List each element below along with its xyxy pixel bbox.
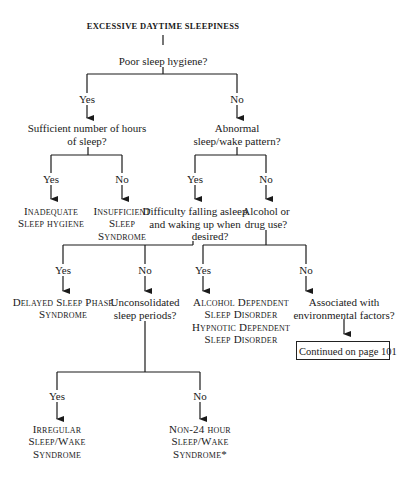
- question-sufficient-hours: Sufficient number of hours of sleep?: [28, 122, 147, 147]
- branch-label-no: No: [138, 264, 151, 276]
- branch-label-yes: Yes: [55, 264, 71, 276]
- question-alcohol-drug-use: Alcohol or drug use?: [242, 205, 289, 230]
- branch-label-yes: Yes: [187, 173, 203, 185]
- question-abnormal-pattern: Abnormal sleep/wake pattern?: [193, 122, 280, 147]
- root-excessive-daytime-sleepiness: EXCESSIVE DAYTIME SLEEPINESS: [87, 20, 240, 33]
- diagnosis-non24-hour-sleep-wake: Non-24 hour Sleep/Wake Syndrome*: [169, 423, 231, 460]
- continued-on-page-box: Continued on page 101: [296, 341, 390, 360]
- question-environmental-factors: Associated with environmental factors?: [293, 296, 394, 321]
- branch-label-no: No: [193, 390, 206, 402]
- diagnosis-alcohol-hypnotic-dependent: Alcohol Dependent Sleep Disorder Hypnoti…: [192, 296, 290, 345]
- branch-label-no: No: [259, 173, 272, 185]
- branch-label-yes: Yes: [43, 173, 59, 185]
- branch-label-no: No: [299, 264, 312, 276]
- question-unconsolidated-sleep: Unconsolidated sleep periods?: [110, 296, 179, 321]
- branch-label-yes: Yes: [49, 390, 65, 402]
- branch-label-no: No: [115, 173, 128, 185]
- branch-label-yes: Yes: [195, 264, 211, 276]
- question-difficulty-falling-asleep: Difficulty falling asleep and waking up …: [143, 205, 248, 243]
- branch-label-no: No: [230, 93, 243, 105]
- question-poor-sleep-hygiene: Poor sleep hygiene?: [119, 55, 208, 68]
- diagnosis-inadequate-sleep-hygiene: Inadequate Sleep hygiene: [18, 205, 84, 230]
- branch-label-yes: Yes: [79, 93, 95, 105]
- diagnosis-irregular-sleep-wake: Irregular Sleep/Wake Syndrome: [28, 423, 85, 460]
- diagnosis-delayed-sleep-phase: Delayed Sleep Phase Syndrome: [13, 296, 114, 321]
